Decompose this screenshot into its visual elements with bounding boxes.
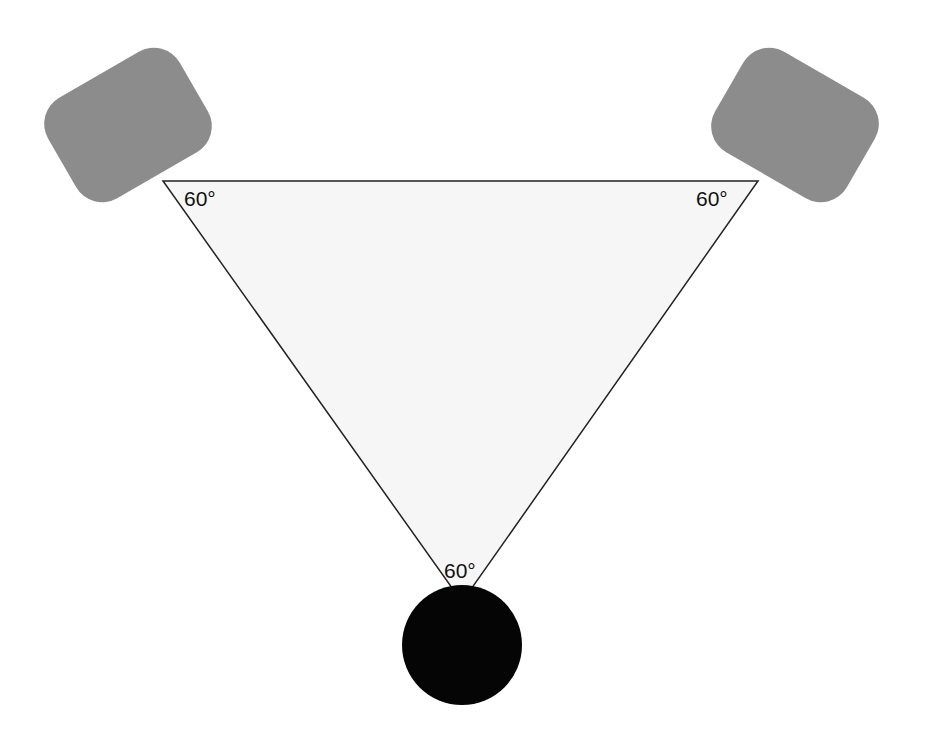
right-angle-label: 60°: [696, 187, 728, 210]
listener-icon: [402, 585, 522, 705]
listening-triangle: [163, 181, 758, 602]
bottom-angle-label: 60°: [444, 559, 476, 582]
left-angle-label: 60°: [184, 187, 216, 210]
stereo-triangle-diagram: 60° 60° 60°: [0, 0, 926, 735]
